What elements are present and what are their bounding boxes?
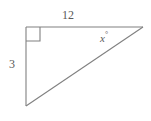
degree-symbol-icon: ° [105,30,108,39]
top-side-length-label: 12 [62,9,74,21]
triangle-hypotenuse [26,27,143,106]
angle-label: x° [100,31,108,44]
right-angle-marker-icon [26,27,40,41]
right-triangle-drawing [0,0,151,121]
left-side-length-label: 3 [9,58,15,70]
geometry-figure: 12 3 x° [0,0,151,121]
